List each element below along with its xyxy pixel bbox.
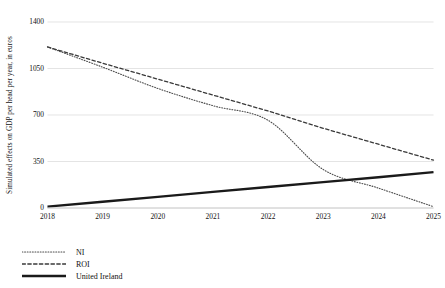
x-axis-tick-labels: 20182019202020212022202320242025 bbox=[0, 213, 445, 227]
line-chart: Simulated effects on GDP per head per ye… bbox=[0, 0, 445, 288]
gridlines bbox=[48, 22, 434, 208]
legend-label: United Ireland bbox=[66, 272, 122, 281]
series-line-roi bbox=[48, 47, 434, 160]
x-tick-label: 2023 bbox=[316, 213, 331, 220]
legend-item-ni[interactable]: NI bbox=[22, 246, 222, 258]
x-tick-label: 2022 bbox=[261, 213, 276, 220]
series-line-united-ireland bbox=[48, 172, 434, 207]
series-lines bbox=[48, 47, 434, 207]
dashed-line-icon bbox=[22, 259, 66, 269]
legend-label: NI bbox=[66, 248, 84, 257]
x-tick-label: 2021 bbox=[206, 213, 221, 220]
legend-label: ROI bbox=[66, 260, 90, 269]
x-tick-label: 2025 bbox=[426, 213, 441, 220]
x-tick-label: 2024 bbox=[371, 213, 386, 220]
solid-line-icon bbox=[22, 271, 66, 281]
x-tick-label: 2019 bbox=[95, 213, 110, 220]
x-tick-label: 2018 bbox=[40, 213, 55, 220]
dotted-line-icon bbox=[22, 247, 66, 257]
chart-legend: NIROIUnited Ireland bbox=[22, 246, 222, 282]
series-line-ni bbox=[48, 47, 434, 207]
plot-area bbox=[0, 0, 445, 288]
legend-item-united-ireland[interactable]: United Ireland bbox=[22, 270, 222, 282]
legend-item-roi[interactable]: ROI bbox=[22, 258, 222, 270]
x-tick-label: 2020 bbox=[150, 213, 165, 220]
